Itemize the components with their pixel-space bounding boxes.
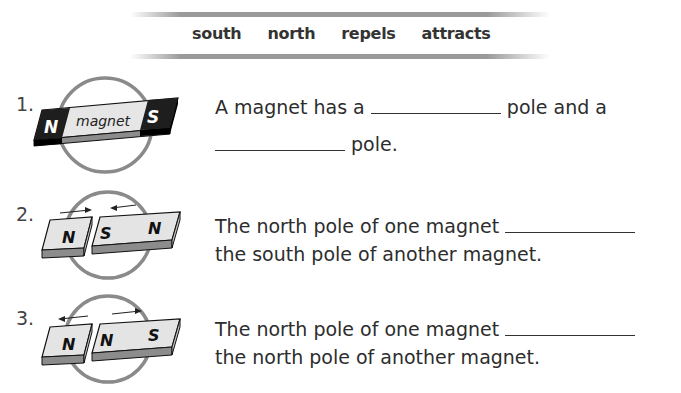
magnet-pole-label: S	[100, 224, 112, 243]
question-2-text: The north pole of one magnet the south p…	[215, 212, 635, 268]
question-text-segment: The north pole of one magnet	[215, 215, 499, 237]
magnet-pole-label: N	[62, 335, 76, 354]
answer-blank[interactable]	[505, 317, 635, 336]
word-bank-word: repels	[341, 24, 395, 43]
word-bank-bottom-rule	[130, 54, 550, 59]
word-bank: south north repels attracts	[130, 10, 550, 62]
question-text-segment: The north pole of one magnet	[215, 318, 499, 340]
magnet-label: magnet	[76, 113, 131, 129]
magnet-pole-label: N	[62, 228, 76, 247]
answer-blank[interactable]	[371, 95, 501, 114]
north-pole-label: N	[44, 117, 58, 137]
question-text-segment: A magnet has a	[215, 96, 365, 118]
question-3-text: The north pole of one magnet the north p…	[215, 315, 635, 371]
attracting-magnets-illustration: N S N	[40, 180, 185, 290]
word-bank-words: south north repels attracts	[192, 24, 491, 43]
repelling-magnets-illustration: N N S	[40, 287, 185, 393]
question-number: 3.	[16, 307, 34, 329]
word-bank-word: north	[267, 24, 315, 43]
question-1-text: A magnet has a pole and a pole.	[215, 93, 607, 158]
magnet-pole-label: N	[100, 331, 114, 350]
question-number: 2.	[16, 203, 34, 225]
question-text-segment: the south pole of another magnet.	[215, 240, 635, 268]
question-text-segment: pole and a	[507, 96, 607, 118]
answer-blank[interactable]	[215, 132, 345, 151]
word-bank-top-rule	[130, 12, 550, 17]
single-magnet-illustration: N S magnet	[30, 70, 180, 180]
south-pole-label: S	[147, 107, 159, 127]
magnet-pole-label: S	[148, 326, 160, 345]
question-text-segment: the north pole of another magnet.	[215, 343, 635, 371]
answer-blank[interactable]	[505, 214, 635, 233]
magnet-pole-label: N	[148, 219, 162, 238]
question-text-segment: pole.	[351, 133, 398, 155]
word-bank-word: attracts	[422, 24, 491, 43]
word-bank-word: south	[192, 24, 241, 43]
